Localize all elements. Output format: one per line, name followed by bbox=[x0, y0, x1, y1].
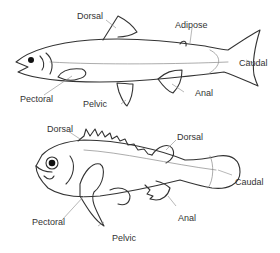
rockfish-fish-icon bbox=[36, 129, 240, 226]
label-pectoral: Pectoral bbox=[20, 94, 53, 104]
label-caudal: Caudal bbox=[239, 58, 268, 68]
fish-diagram-drawing bbox=[0, 0, 280, 253]
label-pectoral: Pectoral bbox=[32, 217, 65, 227]
label-pelvic: Pelvic bbox=[83, 99, 107, 109]
label-anal: Anal bbox=[178, 213, 196, 223]
label-dorsal-spiny: Dorsal bbox=[47, 124, 73, 134]
label-caudal: Caudal bbox=[235, 177, 264, 187]
label-pelvic: Pelvic bbox=[112, 233, 136, 243]
label-dorsal: Dorsal bbox=[77, 11, 103, 21]
label-adipose: Adipose bbox=[175, 20, 208, 30]
trout-fish-icon bbox=[16, 16, 260, 106]
label-anal: Anal bbox=[195, 88, 213, 98]
label-dorsal-soft: Dorsal bbox=[177, 132, 203, 142]
